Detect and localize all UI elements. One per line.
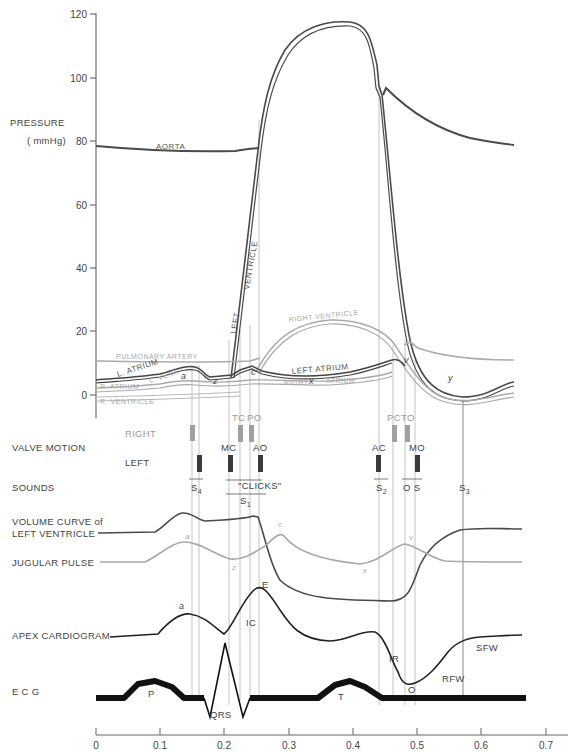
apex-ir-label: IR [389,653,399,664]
y-axis: 120100806040200 [70,9,96,418]
wave-a-label: a [181,371,186,381]
ecg-t-label: T [338,691,344,702]
valve-bar-po [249,425,254,442]
valve-tc-label: TC [232,412,245,423]
valve-bar-ao [258,455,263,472]
r-ventricle-label: R. VENTRICLE [100,398,154,405]
y-tick-label: 20 [76,326,88,337]
volume-curve-label-2: LEFT VENTRICLE [12,528,95,539]
left-ventricle-curve-inner [234,26,514,401]
valve-to-label: TO [401,412,415,423]
valve-bar-left-a [197,455,202,472]
wave-x-label: x [308,376,314,386]
valve-bar-to [405,425,410,442]
valve-left-label: LEFT [125,457,149,468]
sound-brackets [189,479,422,494]
wave-c-label: c [251,367,256,377]
valve-mo-label: MO [409,442,425,453]
y-tick-label: 60 [76,200,88,211]
volume-curve-label-1: VOLUME CURVE of [12,516,103,527]
apex-cardiogram-label: APEX CARDIOGRAM [12,630,110,641]
apex-cardiogram-curve [110,588,522,685]
right-ventricle-baseline [96,392,240,397]
valve-bar-mc [228,455,233,472]
x-tick-label: 0.1 [153,740,167,751]
sound-s3-label: S3 [459,482,470,495]
wave-v-label: v [404,355,409,365]
cardiac-cycle-chart: 120100806040200 PRESSURE ( mmHg) [0,0,582,755]
valve-bar-right-a [190,425,195,441]
aorta-label: AORTA [156,142,185,151]
jugular-x-label: x [362,566,368,575]
apex-a-label: a [179,601,184,611]
sound-s4-label: S4 [191,482,202,495]
valve-bar-tc [238,425,243,442]
valve-mc-label: MC [221,442,236,453]
apex-e-label: E [262,579,269,590]
sound-s1-label: S1 [240,495,251,508]
sound-os-label: O S [403,482,420,493]
sound-clicks-label: "CLICKS" [238,480,281,491]
jugular-z-label: z [231,563,236,572]
aorta-decay-curve [383,88,514,145]
jugular-v-label: v [409,533,414,542]
x-tick-label: 0.4 [346,740,360,751]
y-tick-label: 80 [76,136,88,147]
apex-ic-label: IC [246,617,256,628]
valve-bar-ac [376,455,381,472]
ecg-qrs-label: QRS [210,709,232,720]
jugular-pulse-label: JUGULAR PULSE [12,557,94,568]
y-axis-title: PRESSURE [10,117,65,128]
pulmonary-artery-decay-curve [404,342,514,360]
x-tick-label: 0 [93,740,99,751]
left-ventricle-curve [231,22,514,397]
apex-o-label: O [408,684,416,695]
right-atrium-right-label: RIGHT [284,379,309,386]
y-tick-label: 100 [70,73,87,84]
x-tick-label: 0.2 [217,740,231,751]
right-atrium-right2-label: ATRIUM [326,377,355,384]
apex-rfw-label: RFW [442,673,465,684]
event-guide-lines [192,85,463,705]
jugular-c-label: c [278,520,282,529]
x-axis: 00.10.20.30.40.50.60.7 [93,728,568,751]
y-tick-label: 40 [76,263,88,274]
pressure-curves [96,22,514,405]
valve-pc-label: PC [387,412,401,423]
y-tick-label: 0 [81,390,87,401]
valve-ao-label: AO [253,442,267,453]
ecg-p-label: P [148,688,155,699]
volume-curve [98,513,522,601]
valve-po-label: PO [247,412,261,423]
x-tick-label: 0.7 [539,740,553,751]
wave-y-label: y [447,373,453,383]
x-tick-label: 0.5 [410,740,424,751]
right-ventricle-curve [256,320,514,401]
jugular-pulse-curve [100,535,522,564]
apex-sfw-label: SFW [476,642,498,653]
r-atrium-label: R. ATRIUM [100,383,139,390]
valve-right-label: RIGHT [125,428,156,439]
valve-ac-label: AC [372,442,386,453]
ecg-label: E C G [12,686,39,697]
sound-s2-label: S2 [376,482,387,495]
valve-motion-label: VALVE MOTION [12,442,85,453]
sounds-label: SOUNDS [12,482,54,493]
valve-bar-mo [415,455,420,472]
wave-z-label: z [212,376,218,386]
valve-bar-pc [392,425,397,442]
y-axis-unit: ( mmHg) [27,135,66,146]
x-tick-label: 0.3 [282,740,296,751]
x-tick-label: 0.6 [474,740,488,751]
y-tick-label: 120 [70,9,87,20]
jugular-a-label: a [185,532,190,541]
